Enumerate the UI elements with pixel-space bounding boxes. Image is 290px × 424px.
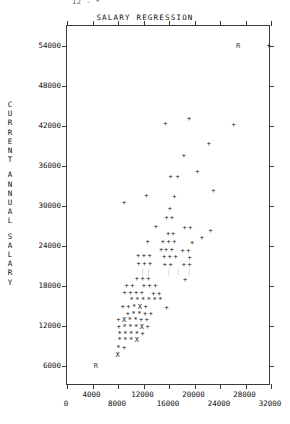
- data-point-marker: +: [182, 153, 186, 160]
- data-point-marker: +: [123, 290, 127, 297]
- data-point-marker: +: [207, 141, 211, 148]
- data-point-marker: +: [166, 231, 170, 238]
- y-axis-tick: [269, 326, 274, 327]
- y-axis-tick: [62, 366, 67, 367]
- y-caption-char: A: [4, 259, 16, 268]
- data-point-marker: +: [122, 344, 126, 351]
- data-point-marker: +: [190, 240, 194, 247]
- data-point-marker: X: [116, 352, 120, 359]
- regression-marker: R: [94, 362, 98, 369]
- y-caption-char: T: [4, 155, 16, 164]
- data-point-marker: +: [145, 324, 149, 331]
- y-axis-caption: CURRENTANNUALSALARY: [4, 100, 16, 287]
- data-point-marker: |: [187, 269, 191, 276]
- data-point-marker: +: [162, 254, 166, 261]
- x-tick-label: 32000: [259, 399, 282, 408]
- x-tick-label: 8000: [108, 399, 126, 408]
- x-axis-tick: [67, 384, 68, 389]
- data-point-marker: X: [135, 337, 139, 344]
- y-caption-char: N: [4, 146, 16, 155]
- y-axis-tick: [62, 246, 67, 247]
- data-point-marker: +: [188, 224, 192, 231]
- y-axis-tick: [269, 126, 274, 127]
- x-tick-label: 20000: [182, 390, 205, 399]
- data-point-marker: +: [165, 215, 169, 222]
- data-point-marker: +: [211, 188, 215, 195]
- y-caption-char: E: [4, 137, 16, 146]
- y-tick-label: 6000: [19, 361, 61, 370]
- y-caption-char: U: [4, 109, 16, 118]
- data-point-marker: +: [175, 174, 179, 181]
- data-point-marker: +: [154, 224, 158, 231]
- y-axis-tick: [62, 206, 67, 207]
- x-tick-label: 24000: [208, 399, 231, 408]
- x-axis-tick: [67, 21, 68, 26]
- y-caption-char: S: [4, 232, 16, 241]
- x-axis-tick: [144, 384, 145, 389]
- x-axis-tick: [271, 21, 272, 26]
- data-point-marker: |: [167, 269, 171, 276]
- y-tick-label: 18000: [19, 281, 61, 290]
- y-caption-char: Y: [4, 278, 16, 287]
- data-point-marker: *: [158, 297, 162, 304]
- y-axis-tick: [62, 46, 67, 47]
- regression-marker: R: [236, 42, 240, 49]
- data-point-marker: +: [200, 234, 204, 241]
- x-tick-label: 0: [64, 399, 69, 408]
- y-tick-label: 48000: [19, 81, 61, 90]
- x-tick-label: 12000: [131, 390, 154, 399]
- x-axis-tick: [246, 384, 247, 389]
- data-point-marker: +: [149, 310, 153, 317]
- data-point-marker: +: [165, 304, 169, 311]
- data-point-marker: +: [182, 224, 186, 231]
- x-tick-label: 4000: [82, 390, 100, 399]
- data-point-marker: +: [142, 253, 146, 260]
- x-axis-tick: [118, 21, 119, 26]
- data-point-marker: +: [181, 248, 185, 255]
- data-point-marker: +: [121, 304, 125, 311]
- data-point-marker: +: [267, 43, 271, 50]
- x-axis-tick: [195, 21, 196, 26]
- y-caption-char: C: [4, 100, 16, 109]
- y-axis-tick: [62, 286, 67, 287]
- y-axis-tick: [62, 326, 67, 327]
- y-caption-char: A: [4, 207, 16, 216]
- data-point-marker: +: [187, 116, 191, 123]
- data-point-marker: +: [168, 254, 172, 261]
- data-point-marker: +: [171, 231, 175, 238]
- x-axis-tick: [220, 21, 221, 26]
- x-axis-tick: [169, 21, 170, 26]
- y-axis-tick: [269, 246, 274, 247]
- y-caption-char: A: [4, 241, 16, 250]
- y-axis-tick: [62, 166, 67, 167]
- y-tick-label: 12000: [19, 321, 61, 330]
- data-point-marker: +: [168, 174, 172, 181]
- y-axis-tick: [269, 206, 274, 207]
- x-axis-tick: [118, 384, 119, 389]
- plot-canvas: 12 - * SALARY REGRESSION CURRENTANNUALSA…: [0, 0, 290, 424]
- data-point-marker: +: [147, 253, 151, 260]
- y-caption-char: R: [4, 128, 16, 137]
- x-axis-tick: [144, 21, 145, 26]
- data-point-marker: +: [182, 262, 186, 269]
- chart-title: SALARY REGRESSION: [0, 13, 290, 22]
- data-point-marker: +: [122, 200, 126, 207]
- data-point-marker: +: [140, 330, 144, 337]
- y-tick-label: 42000: [19, 121, 61, 130]
- y-caption-char: U: [4, 198, 16, 207]
- clipped-top-text: 12 - *: [72, 0, 100, 6]
- x-axis-tick: [93, 21, 94, 26]
- data-point-marker: +: [195, 168, 199, 175]
- data-point-marker: +: [232, 122, 236, 129]
- data-point-marker: +: [170, 215, 174, 222]
- y-tick-label: 36000: [19, 161, 61, 170]
- x-axis-tick: [169, 384, 170, 389]
- y-caption-char: N: [4, 180, 16, 189]
- data-point-marker: *: [129, 337, 133, 344]
- y-tick-label: 30000: [19, 201, 61, 210]
- data-point-marker: +: [183, 276, 187, 283]
- y-axis-tick: [269, 286, 274, 287]
- y-caption-char: R: [4, 118, 16, 127]
- x-axis-tick: [220, 384, 221, 389]
- y-axis-tick: [62, 126, 67, 127]
